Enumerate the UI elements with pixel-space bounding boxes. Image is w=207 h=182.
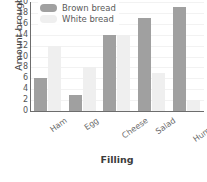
y-tick-label: 10 (6, 53, 28, 61)
y-tick-label: 6 (6, 74, 28, 82)
legend: Brown bread White bread (38, 1, 119, 26)
bar[interactable] (173, 7, 186, 111)
y-axis-tick-labels: 02468101214161820 (4, 0, 28, 112)
bar[interactable] (69, 95, 82, 111)
bar[interactable] (117, 35, 130, 111)
bar[interactable] (83, 67, 96, 111)
y-tick-label: 18 (6, 9, 28, 17)
bar-chart: Amount brought 02468101214161820 HamEggC… (0, 0, 207, 182)
bar[interactable] (152, 73, 165, 111)
legend-label: White bread (62, 14, 114, 24)
bar[interactable] (34, 78, 47, 111)
y-tick-label: 14 (6, 31, 28, 39)
x-tick-label: Salad (154, 116, 177, 136)
bar[interactable] (103, 35, 116, 111)
y-tick-label: 0 (6, 107, 28, 115)
bar-group (134, 2, 169, 111)
x-tick-label: Egg (83, 116, 101, 132)
y-tick-label: 12 (6, 42, 28, 50)
legend-swatch-icon (40, 4, 57, 12)
y-tick-label: 2 (6, 96, 28, 104)
x-axis-tick-labels: HamEggCheeseSaladHummus (30, 114, 204, 148)
legend-item-brown-bread[interactable]: Brown bread (40, 2, 116, 13)
bar[interactable] (48, 46, 61, 111)
y-tick-label: 4 (6, 85, 28, 93)
bar[interactable] (187, 100, 200, 111)
x-tick-label: Ham (49, 116, 69, 134)
legend-swatch-icon (40, 15, 57, 23)
legend-item-white-bread[interactable]: White bread (40, 13, 116, 24)
x-tick-label: Hummus (191, 116, 207, 144)
y-tick-label: 20 (6, 0, 28, 6)
bar[interactable] (138, 18, 151, 111)
x-tick-label: Cheese (120, 116, 149, 140)
legend-label: Brown bread (62, 3, 116, 13)
x-axis-title: Filling (30, 154, 204, 165)
x-axis-spine (30, 111, 204, 112)
y-axis-spine (30, 2, 31, 112)
bar-group (169, 2, 204, 111)
y-tick-label: 16 (6, 20, 28, 28)
y-tick-label: 8 (6, 63, 28, 71)
